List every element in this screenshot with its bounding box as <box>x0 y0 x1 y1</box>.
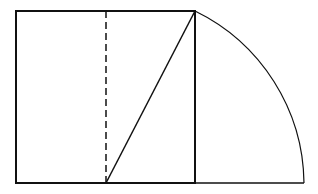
quarter-arc <box>195 11 304 183</box>
diagonal-line <box>106 11 195 183</box>
golden-rectangle-diagram <box>0 0 318 194</box>
